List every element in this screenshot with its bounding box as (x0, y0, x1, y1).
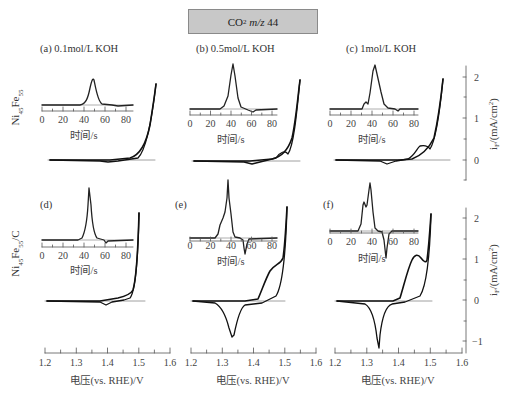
x-axis-col2 (191, 348, 316, 353)
svg-text:1.5: 1.5 (424, 357, 437, 368)
svg-text:时间/s: 时间/s (358, 252, 385, 264)
svg-text:1.2: 1.2 (329, 357, 342, 368)
svg-text:1.3: 1.3 (216, 357, 229, 368)
svg-text:40: 40 (79, 114, 89, 125)
inset-b (190, 64, 277, 115)
svg-text:20: 20 (58, 250, 68, 261)
svg-text:1: 1 (474, 254, 479, 265)
svg-text:60: 60 (247, 118, 257, 129)
svg-text:40: 40 (79, 250, 89, 261)
svg-text:0: 0 (188, 118, 193, 129)
svg-text:40: 40 (226, 118, 236, 129)
svg-text:20: 20 (346, 236, 356, 247)
cv-curve-e (191, 207, 287, 337)
svg-text:0: 0 (40, 250, 45, 261)
chart-canvas: 2 1 0 iF/(mA/cm2) (0, 0, 506, 394)
svg-text:电压(vs. RHE)/V: 电压(vs. RHE)/V (70, 374, 143, 387)
svg-text:1.2: 1.2 (39, 357, 52, 368)
svg-text:80: 80 (409, 118, 419, 129)
svg-text:1.6: 1.6 (310, 357, 323, 368)
inset-d (42, 188, 133, 247)
cv-curve-f (335, 214, 432, 348)
svg-text:60: 60 (100, 114, 110, 125)
svg-text:0: 0 (188, 240, 193, 251)
svg-text:0: 0 (328, 236, 333, 247)
svg-text:20: 20 (206, 240, 216, 251)
svg-text:80: 80 (121, 250, 131, 261)
x-axis-col1 (45, 348, 170, 353)
svg-text:1.3: 1.3 (361, 357, 374, 368)
y-axis-title-top: iF/(mA/cm2) (487, 98, 501, 150)
svg-text:1.3: 1.3 (70, 357, 83, 368)
y-axis-top: 2 1 0 iF/(mA/cm2) (463, 66, 501, 180)
svg-text:时间/s: 时间/s (70, 264, 97, 276)
svg-text:1.6: 1.6 (164, 357, 177, 368)
svg-text:1.2: 1.2 (185, 357, 198, 368)
inset-a (42, 79, 133, 111)
svg-text:40: 40 (226, 240, 236, 251)
svg-text:60: 60 (100, 250, 110, 261)
svg-text:时间/s: 时间/s (358, 133, 385, 145)
svg-text:−1: −1 (472, 336, 483, 347)
svg-text:80: 80 (267, 118, 277, 129)
svg-text:时间/s: 时间/s (70, 129, 97, 141)
inset-c (330, 65, 418, 115)
svg-text:电压(vs. RHE)/V: 电压(vs. RHE)/V (216, 374, 289, 387)
y-axis-bottom: 2 1 0 −1 iF/(mA/cm2) (463, 208, 501, 353)
svg-text:1.4: 1.4 (101, 357, 114, 368)
svg-text:0: 0 (474, 155, 479, 166)
x-axis-col3 (335, 348, 462, 353)
svg-text:1.6: 1.6 (456, 357, 469, 368)
main-x-tick-labels: 1.2 1.3 1.4 1.5 1.6 电压(vs. RHE)/V 1.2 1.… (39, 357, 469, 387)
svg-text:2: 2 (474, 213, 479, 224)
svg-text:2: 2 (474, 72, 479, 83)
svg-text:1.4: 1.4 (247, 357, 260, 368)
svg-text:0: 0 (328, 118, 333, 129)
svg-text:40: 40 (367, 236, 377, 247)
svg-text:1: 1 (474, 113, 479, 124)
svg-text:时间/s: 时间/s (217, 255, 244, 267)
svg-text:60: 60 (247, 240, 257, 251)
svg-text:时间/s: 时间/s (217, 133, 244, 145)
svg-text:0: 0 (40, 114, 45, 125)
svg-text:电压(vs. RHE)/V: 电压(vs. RHE)/V (361, 374, 434, 387)
svg-text:40: 40 (367, 118, 377, 129)
svg-text:1.4: 1.4 (392, 357, 405, 368)
svg-text:80: 80 (409, 236, 419, 247)
svg-text:1.5: 1.5 (279, 357, 292, 368)
svg-text:20: 20 (346, 118, 356, 129)
y-axis-title-bottom: iF/(mA/cm2) (487, 244, 501, 296)
svg-text:80: 80 (267, 240, 277, 251)
svg-text:1.5: 1.5 (133, 357, 146, 368)
svg-text:60: 60 (388, 118, 398, 129)
svg-text:20: 20 (206, 118, 216, 129)
svg-text:0: 0 (474, 295, 479, 306)
svg-text:80: 80 (121, 114, 131, 125)
svg-text:20: 20 (58, 114, 68, 125)
svg-text:60: 60 (388, 236, 398, 247)
